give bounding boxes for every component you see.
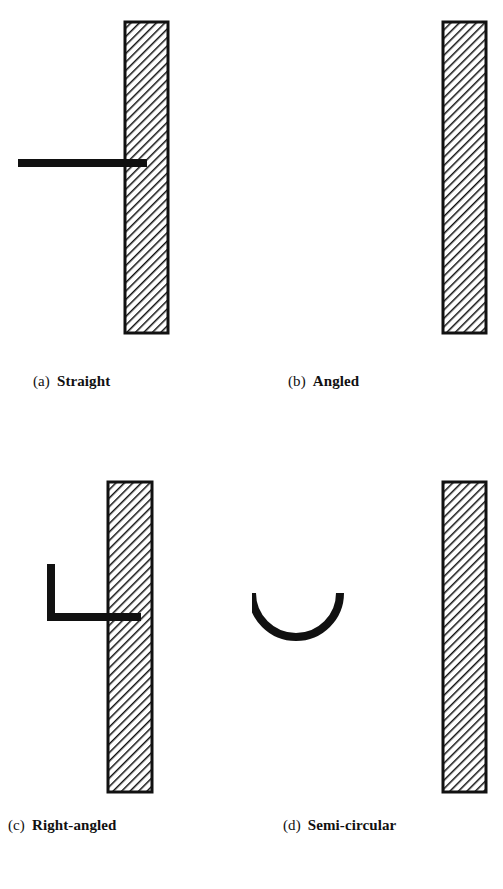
caption-label-d: Semi-circular [308,817,397,833]
anchor-bar-semi-circular [252,593,340,637]
wall-section [443,482,486,792]
wall-section [108,482,152,792]
caption-label-a: Straight [57,373,110,389]
panel-angled: (b)Angled [252,0,503,445]
wall-section [125,22,168,333]
caption-tag-a: (a) [33,373,50,389]
caption-tag-c: (c) [8,817,25,833]
caption-label-b: Angled [313,373,359,389]
caption-label-c: Right-angled [32,817,117,833]
caption-panel-a: (a)Straight [0,373,284,390]
figure-root: (a)Straight (b)Angled [0,0,503,889]
panel-right-angled: (c)Right-angled [0,445,251,889]
caption-tag-d: (d) [283,817,301,833]
caption-tag-b: (b) [288,373,306,389]
caption-panel-d: (d)Semi-circular [252,817,503,834]
panel-semi-circular: (d)Semi-circular [252,445,503,889]
caption-panel-c: (c)Right-angled [0,817,259,834]
panel-straight: (a)Straight [0,0,251,445]
wall-section [443,22,486,333]
caption-panel-b: (b)Angled [252,373,503,390]
figure-bottom-caption [0,878,503,889]
